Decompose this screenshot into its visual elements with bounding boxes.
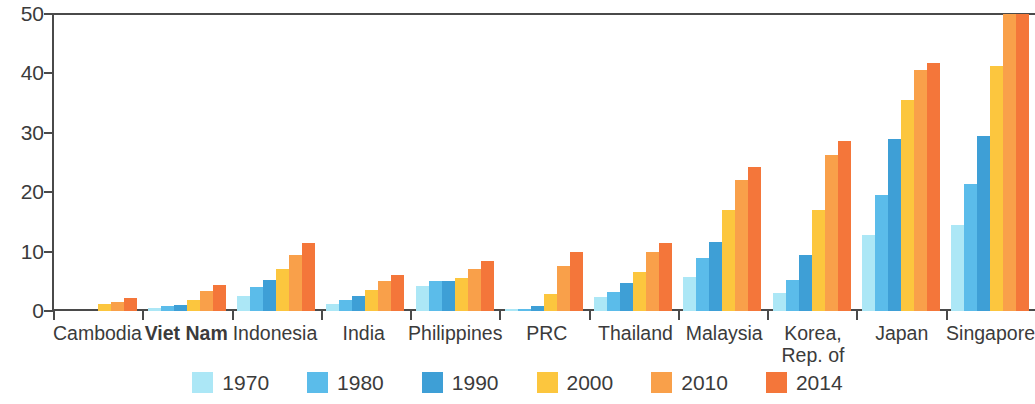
- bar: [531, 306, 544, 311]
- legend-label: 1980: [337, 372, 384, 393]
- bar: [505, 309, 518, 311]
- x-axis-tickmark: [856, 311, 858, 320]
- x-axis-tickmark: [946, 311, 948, 320]
- legend-item[interactable]: 1990: [422, 372, 499, 393]
- bar: [927, 63, 940, 311]
- bar: [862, 235, 875, 311]
- bar: [378, 281, 391, 311]
- bar: [977, 136, 990, 311]
- x-axis-tickmark: [321, 311, 323, 320]
- x-axis-category-label: Viet Nam: [142, 322, 231, 368]
- bar: [429, 281, 442, 311]
- x-axis-category-label: Cambodia: [53, 322, 142, 368]
- y-axis-tick-label: 50: [21, 2, 44, 26]
- x-axis-category-label: Thailand: [591, 322, 680, 368]
- bar-group: [499, 14, 588, 311]
- y-axis-tick-label: 10: [21, 240, 44, 264]
- bar: [888, 139, 901, 311]
- bar: [709, 242, 722, 311]
- legend-item[interactable]: 1980: [307, 372, 384, 393]
- bar: [570, 252, 583, 311]
- bar: [557, 266, 570, 311]
- legend-label: 1990: [452, 372, 499, 393]
- x-axis-category-label: Singapore: [946, 322, 1035, 368]
- bar: [1003, 14, 1016, 311]
- bar-groups: [53, 14, 1035, 311]
- legend-label: 1970: [222, 372, 269, 393]
- legend-item[interactable]: 2000: [537, 372, 614, 393]
- legend-color-swatch: [537, 372, 558, 393]
- bar: [951, 225, 964, 311]
- bar-group: [767, 14, 856, 311]
- x-axis-labels: CambodiaViet NamIndonesiaIndiaPhilippine…: [53, 322, 1035, 368]
- bar: [148, 308, 161, 311]
- bar: [263, 280, 276, 311]
- y-axis-tick-label: 30: [21, 121, 44, 145]
- bar: [838, 141, 851, 311]
- bar: [722, 210, 735, 311]
- y-axis-tick-label: 20: [21, 180, 44, 204]
- legend-color-swatch: [651, 372, 672, 393]
- bar: [302, 243, 315, 311]
- x-axis-category-label: Japan: [857, 322, 946, 368]
- bar: [518, 309, 531, 311]
- bar: [481, 261, 494, 311]
- bar: [442, 281, 455, 311]
- bar: [990, 66, 1003, 311]
- chart-legend: 197019801990200020102014: [0, 372, 1035, 393]
- bar-group: [856, 14, 945, 311]
- x-axis-category-label: Indonesia: [231, 322, 320, 368]
- x-axis-tickmark: [767, 311, 769, 320]
- bar-group: [678, 14, 767, 311]
- bar: [812, 210, 825, 311]
- bar: [276, 269, 289, 311]
- bar: [111, 302, 124, 311]
- bar: [633, 272, 646, 311]
- bar: [365, 290, 378, 311]
- bar: [607, 292, 620, 311]
- bar: [773, 293, 786, 311]
- bar: [544, 294, 557, 311]
- bar: [659, 243, 672, 311]
- y-axis-labels: 01020304050: [0, 0, 44, 311]
- bar: [875, 195, 888, 311]
- x-axis-tickmark: [232, 311, 234, 320]
- bar: [187, 300, 200, 311]
- bar: [416, 286, 429, 311]
- bar: [964, 184, 977, 311]
- x-axis-tickmark: [410, 311, 412, 320]
- bar: [98, 304, 111, 311]
- bar-group: [946, 14, 1035, 311]
- bar: [683, 277, 696, 311]
- y-axis-tick-label: 40: [21, 61, 44, 85]
- bar: [696, 258, 709, 311]
- bar: [620, 283, 633, 311]
- bar: [825, 155, 838, 311]
- bar-group: [410, 14, 499, 311]
- x-axis-tickmark: [678, 311, 680, 320]
- legend-label: 2010: [681, 372, 728, 393]
- x-axis-category-label: Malaysia: [680, 322, 769, 368]
- bar: [352, 296, 365, 311]
- bar: [901, 100, 914, 311]
- legend-color-swatch: [307, 372, 328, 393]
- bar-group: [142, 14, 231, 311]
- legend-color-swatch: [766, 372, 787, 393]
- bar: [646, 252, 659, 311]
- legend-item[interactable]: 2010: [651, 372, 728, 393]
- bar: [1016, 14, 1029, 311]
- bar: [326, 304, 339, 311]
- bar: [213, 285, 226, 311]
- bar: [455, 278, 468, 311]
- bar: [289, 255, 302, 311]
- x-axis-tickmark: [53, 311, 55, 320]
- bar: [468, 269, 481, 311]
- y-axis-tick-label: 0: [32, 299, 44, 323]
- legend-item[interactable]: 2014: [766, 372, 843, 393]
- bar: [237, 296, 250, 311]
- x-axis-category-label: Philippines: [408, 322, 502, 368]
- bar: [735, 180, 748, 311]
- legend-item[interactable]: 1970: [192, 372, 269, 393]
- bar: [161, 306, 174, 311]
- bar: [594, 297, 607, 311]
